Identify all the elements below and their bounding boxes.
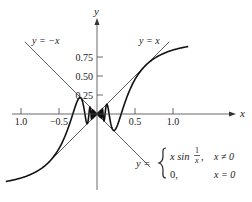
piecewise-definition: y = x sin 1 x , x ≠ 0 0, x = 0 <box>135 146 235 180</box>
x-tick-label: 0.5 <box>129 116 142 127</box>
y-ticks: 0.250.500.75 <box>76 52 104 101</box>
piece2-expr: 0, <box>170 169 178 180</box>
piece1-expr: x sin <box>169 151 190 162</box>
y-tick-label: 0.25 <box>76 90 94 101</box>
function-plot: 1.0−0.50.51.0 0.250.500.75 x y y = −x y … <box>0 0 252 202</box>
x-axis-label: x <box>239 107 245 119</box>
piece1-denominator: x <box>194 156 199 165</box>
label-y-equals-x: y = x <box>138 35 160 46</box>
label-y-equals-neg-x: y = −x <box>31 35 60 46</box>
brace-icon <box>159 148 166 178</box>
piecewise-lhs: y = <box>135 158 150 169</box>
y-tick-label: 0.75 <box>76 52 94 63</box>
y-axis-arrow-icon <box>95 18 100 25</box>
y-axis-label: y <box>93 5 99 17</box>
x-axis-arrow-icon <box>229 112 236 117</box>
x-tick-label: 1.0 <box>15 116 28 127</box>
y-tick-label: 0.50 <box>76 71 94 82</box>
piece1-condition: x ≠ 0 <box>213 151 234 162</box>
x-tick-label: −0.5 <box>50 116 68 127</box>
piece1-comma: , <box>201 151 204 162</box>
x-tick-label: 1.0 <box>167 116 180 127</box>
piece2-condition: x = 0 <box>213 169 235 180</box>
piece1-numerator: 1 <box>195 146 199 155</box>
